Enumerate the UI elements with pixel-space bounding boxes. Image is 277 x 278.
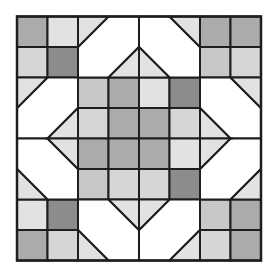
square-r1-c1 bbox=[48, 47, 79, 78]
square-r2-c4 bbox=[139, 78, 170, 109]
square-r7-c7 bbox=[231, 230, 262, 261]
square-r7-c0 bbox=[17, 230, 48, 261]
square-r4-c4 bbox=[139, 139, 170, 170]
square-r0-c6 bbox=[200, 17, 231, 48]
square-r3-c3 bbox=[109, 108, 140, 139]
square-r1-c6 bbox=[200, 47, 231, 78]
square-r5-c4 bbox=[139, 169, 170, 200]
square-r6-c0 bbox=[17, 200, 48, 231]
square-r1-c0 bbox=[17, 47, 48, 78]
square-r0-c0 bbox=[17, 17, 48, 48]
square-r3-c2 bbox=[78, 108, 109, 139]
square-r7-c1 bbox=[48, 230, 79, 261]
square-r6-c6 bbox=[200, 200, 231, 231]
square-r2-c2 bbox=[78, 78, 109, 109]
square-r3-c4 bbox=[139, 108, 170, 139]
square-r6-c1 bbox=[48, 200, 79, 231]
square-r5-c5 bbox=[170, 169, 201, 200]
square-r5-c2 bbox=[78, 169, 109, 200]
square-r4-c5 bbox=[170, 139, 201, 170]
square-r7-c6 bbox=[200, 230, 231, 261]
square-r3-c5 bbox=[170, 108, 201, 139]
square-r4-c3 bbox=[109, 139, 140, 170]
square-r4-c2 bbox=[78, 139, 109, 170]
square-r2-c3 bbox=[109, 78, 140, 109]
square-r6-c7 bbox=[231, 200, 262, 231]
quilt-pieces bbox=[17, 17, 261, 261]
square-r1-c7 bbox=[231, 47, 262, 78]
square-r2-c5 bbox=[170, 78, 201, 109]
square-r0-c1 bbox=[48, 17, 79, 48]
square-r0-c7 bbox=[231, 17, 262, 48]
quilt-block bbox=[0, 0, 277, 278]
square-r5-c3 bbox=[109, 169, 140, 200]
